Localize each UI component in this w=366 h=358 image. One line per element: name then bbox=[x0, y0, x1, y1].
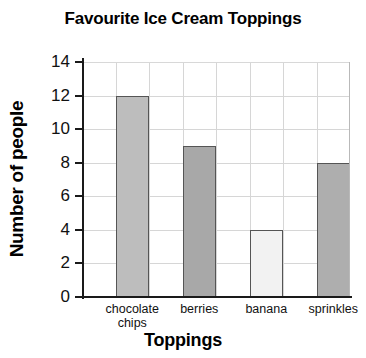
bar bbox=[317, 163, 351, 297]
gridline-vertical bbox=[149, 62, 150, 297]
y-tick-label: 0 bbox=[30, 288, 70, 305]
plot-area bbox=[82, 62, 350, 297]
gridline-vertical bbox=[283, 62, 284, 297]
bar bbox=[183, 146, 217, 297]
bar bbox=[250, 230, 284, 297]
y-tick-mark bbox=[75, 262, 82, 264]
plot-top-edge bbox=[82, 62, 350, 63]
y-axis-label-wrapper: Number of people bbox=[2, 60, 32, 298]
y-tick-label: 2 bbox=[30, 254, 70, 271]
y-tick-mark bbox=[75, 229, 82, 231]
y-tick-mark bbox=[75, 95, 82, 97]
bar-chart-figure: Favourite Ice Cream Toppings Number of p… bbox=[0, 0, 366, 358]
chart-title: Favourite Ice Cream Toppings bbox=[0, 8, 366, 30]
y-axis-line bbox=[82, 58, 84, 299]
y-tick-mark bbox=[75, 128, 82, 130]
y-tick-label: 10 bbox=[30, 120, 70, 137]
y-tick-label: 8 bbox=[30, 154, 70, 171]
y-tick-mark bbox=[75, 195, 82, 197]
x-tick-label: sprinkles bbox=[288, 302, 366, 316]
plot-right-edge bbox=[349, 62, 350, 297]
y-tick-label: 6 bbox=[30, 187, 70, 204]
y-tick-mark bbox=[75, 61, 82, 63]
y-tick-mark bbox=[75, 162, 82, 164]
y-tick-label: 12 bbox=[30, 87, 70, 104]
y-tick-label: 14 bbox=[30, 53, 70, 70]
gridline-vertical bbox=[216, 62, 217, 297]
y-axis-label: Number of people bbox=[6, 101, 28, 258]
x-axis-line bbox=[80, 296, 352, 298]
bar bbox=[116, 96, 150, 297]
x-axis-label: Toppings bbox=[0, 330, 366, 351]
y-tick-label: 4 bbox=[30, 221, 70, 238]
